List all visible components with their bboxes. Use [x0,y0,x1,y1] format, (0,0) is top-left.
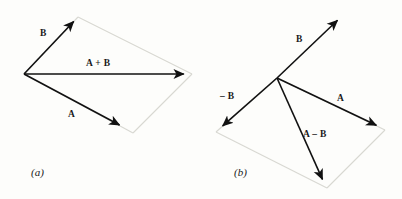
vector-arrow-a-B [24,22,74,74]
vector-label-a-B: B [40,28,47,38]
vector-arrow-b-A [277,78,376,125]
vector-label-a-A+B: A + B [86,58,111,68]
vector-label-b--B: – B [219,91,235,101]
vector-labels: BA + BAB– BAA – B [40,28,344,139]
vector-arrows [24,20,376,179]
vector-arrow-b-B [277,20,338,78]
ghost-edge-a-a-tip-to-sum-tip [133,74,192,133]
panel-caption-a: (a) [31,166,44,179]
vector-label-b-B: B [296,34,303,44]
vector-label-b-A-B: A – B [303,129,327,139]
ghost-edge-b-negb-tip-to-diff-tip [216,132,327,188]
panel-captions: (a)(b) [31,166,247,179]
vector-label-b-A: A [337,93,344,103]
vector-label-a-A: A [68,109,75,119]
ghost-edge-b-diff-tip-to-a-tip [327,130,385,188]
panel-caption-b: (b) [234,166,247,179]
vector-canvas: BA + BAB– BAA – B (a)(b) [0,0,402,199]
vector-diagram-figure: BA + BAB– BAA – B (a)(b) [0,0,402,199]
vector-arrow-b--B [223,78,277,126]
